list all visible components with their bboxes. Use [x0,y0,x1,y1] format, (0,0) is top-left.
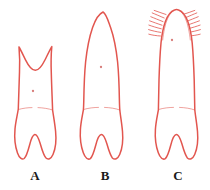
figure-plate: A B [0,0,210,190]
figure-b-pulp-dot [100,66,102,68]
figure-a-pulp-dot [32,90,34,92]
figure-b: B [80,12,122,183]
figure-a-label: A [30,168,40,183]
figure-c: C [149,10,201,183]
figure-b-label: B [101,168,110,183]
figure-a: A [15,47,56,183]
specimen-diagram: A B [0,0,210,190]
figure-a-outline [15,47,56,159]
figure-c-outline [155,10,197,160]
figure-c-pulp-dot [171,39,173,41]
figure-b-outline [80,12,122,159]
figure-c-label: C [173,168,182,183]
